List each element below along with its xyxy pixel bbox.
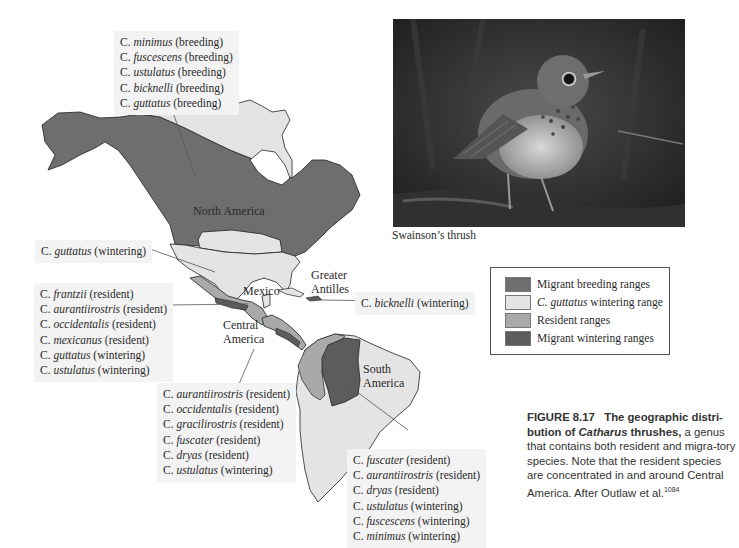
species-line: C. minimus (breeding) — [120, 35, 233, 50]
swatch-guttatus-wintering — [505, 295, 531, 310]
species-line: C. dryas (resident) — [353, 483, 480, 498]
legend-item-resident: Resident ranges — [505, 312, 610, 328]
callout-breeding: C. minimus (breeding) C. fuscescens (bre… — [114, 31, 239, 115]
species-line: C. aurantiirostris (resident) — [353, 468, 480, 483]
label-greater-antilles-1: Greater — [311, 268, 347, 282]
species-line: C. minimus (wintering) — [353, 529, 480, 544]
species-line: C. guttatus (breeding) — [120, 96, 233, 111]
label-mexico: Mexico — [243, 284, 280, 298]
figure-number: FIGURE 8.17 — [527, 411, 595, 423]
swatch-migrant-breeding — [505, 277, 531, 292]
callout-bicknelli-wintering: C. bicknelli (wintering) — [355, 292, 475, 315]
species-line: C. aurantiirostris (resident) — [40, 302, 167, 317]
species-line: C. ustulatus (wintering) — [40, 363, 167, 378]
species-line: C. bicknelli (breeding) — [120, 81, 233, 96]
species-line: C. aurantiirostris (resident) — [163, 387, 290, 402]
legend-item-migrant-breeding: Migrant breeding ranges — [505, 276, 650, 292]
label-south-america-2: America — [363, 376, 404, 390]
species-line: C. ustulatus (breeding) — [120, 65, 233, 80]
swatch-migrant-wintering — [505, 331, 531, 346]
species-line: C. dryas (resident) — [163, 448, 290, 463]
callout-south-america: C. fuscater (resident) C. aurantiirostri… — [347, 449, 486, 548]
label-greater-antilles-2: Antilles — [311, 282, 349, 296]
species-line: C. fuscater (resident) — [163, 433, 290, 448]
species-line: C. fuscescens (breeding) — [120, 50, 233, 65]
label-central-america-2: America — [223, 332, 264, 346]
callout-guttatus-wintering: C. guttatus (wintering) — [35, 240, 152, 263]
species-line: C. occidentalis (resident) — [163, 402, 290, 417]
legend-item-migrant-wintering: Migrant wintering ranges — [505, 330, 654, 346]
species-line: C. guttatus (wintering) — [40, 348, 167, 363]
callout-mexico: C. frantzii (resident) C. aurantiirostri… — [34, 283, 173, 382]
callout-central-america: C. aurantiirostris (resident) C. occiden… — [157, 383, 296, 482]
species-line: C. occidentalis (resident) — [40, 317, 167, 332]
species-line: C. frantzii (resident) — [40, 287, 167, 302]
species-line: C. ustulatus (wintering) — [353, 499, 480, 514]
species-line: C. fuscescens (wintering) — [353, 514, 480, 529]
species-line: C. bicknelli (wintering) — [361, 296, 469, 311]
label-central-america-1: Central — [223, 318, 258, 332]
map-legend: Migrant breeding ranges C. guttatus wint… — [490, 267, 670, 355]
reference-number: 1084 — [664, 486, 680, 493]
legend-item-guttatus-wintering: C. guttatus wintering range — [505, 294, 663, 310]
thrush-photo — [393, 19, 685, 227]
species-line: C. gracilirostris (resident) — [163, 417, 290, 432]
swatch-resident — [505, 313, 531, 328]
figure-caption: FIGURE 8.17 The geographic distri-bution… — [527, 410, 737, 500]
photo-caption: Swainson’s thrush — [392, 229, 476, 241]
label-south-america-1: South — [363, 362, 391, 376]
species-line: C. mexicanus (resident) — [40, 333, 167, 348]
species-line: C. guttatus (wintering) — [41, 244, 146, 259]
species-line: C. ustulatus (wintering) — [163, 463, 290, 478]
label-north-america: North America — [193, 204, 265, 218]
species-line: C. fuscater (resident) — [353, 453, 480, 468]
